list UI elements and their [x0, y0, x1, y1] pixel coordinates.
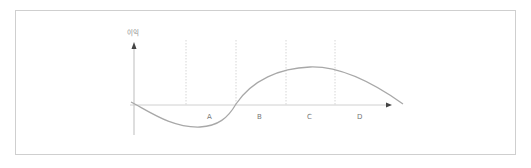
- region-label-b: B: [257, 113, 262, 121]
- x-axis-arrow-icon: [386, 103, 392, 108]
- region-label-a: A: [207, 113, 212, 121]
- y-axis-label: 이익: [127, 28, 139, 37]
- region-label-c: C: [307, 113, 312, 121]
- region-label-d: D: [357, 113, 362, 121]
- region-dividers: [186, 40, 335, 105]
- profit-curve-diagram: 이익 A B C D: [0, 0, 531, 168]
- y-axis-arrow-icon: [132, 42, 137, 49]
